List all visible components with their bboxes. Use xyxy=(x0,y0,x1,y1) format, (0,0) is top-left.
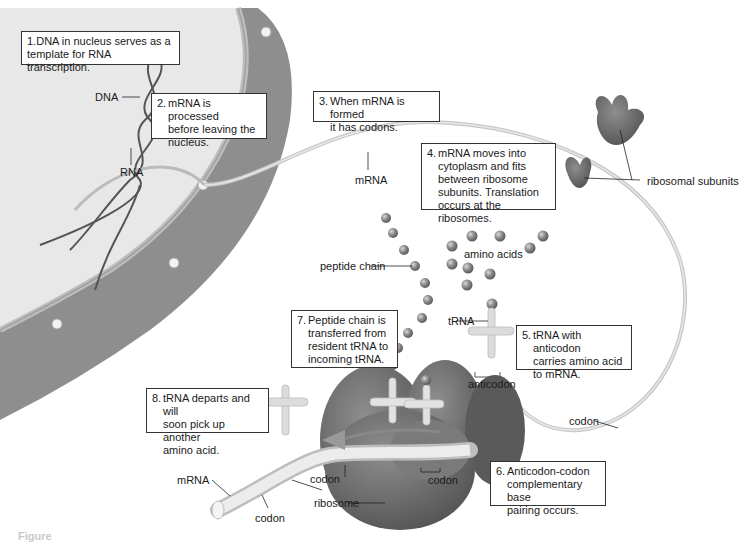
label-codon-mid: codon xyxy=(310,473,340,485)
step-6-box: 6. Anticodon-codon complementary base pa… xyxy=(490,461,606,506)
step-number: 3. xyxy=(319,95,328,108)
step-7-box: 7. Peptide chain is transferred from res… xyxy=(291,310,398,368)
ribosomal-subunit-large xyxy=(596,95,644,145)
step-number: 6. xyxy=(496,465,505,478)
label-peptide-chain: peptide chain xyxy=(320,260,385,272)
label-anticodon: anticodon xyxy=(468,378,516,390)
label-trna: tRNA xyxy=(448,315,474,327)
label-mrna-top: mRNA xyxy=(355,174,387,186)
step-description: mRNA is processed before leaving the nuc… xyxy=(157,97,261,149)
label-dna: DNA xyxy=(95,91,118,103)
trna-incoming xyxy=(468,308,514,358)
step-description: When mRNA is formed it has codons. xyxy=(319,95,434,134)
step-description: Anticodon-codon complementary base pairi… xyxy=(496,465,600,517)
step-number: 7. xyxy=(297,314,306,327)
step-5-box: 5. tRNA with anticodon carries amino aci… xyxy=(516,325,632,370)
step-description: mRNA moves into cytoplasm and fits betwe… xyxy=(427,147,550,225)
step-number: 4. xyxy=(427,147,436,160)
label-amino-acids: amino acids xyxy=(464,248,523,260)
ribosomal-subunit-small xyxy=(565,157,591,188)
step-2-box: 2. mRNA is processed before leaving the … xyxy=(151,93,267,139)
amino-acids xyxy=(447,231,549,310)
figure-caption: Figure xyxy=(18,530,52,542)
label-codon-right: codon xyxy=(569,415,599,427)
step-1-text: 1.DNA in nucleus serves as a template fo… xyxy=(27,35,174,74)
step-4-box: 4. mRNA moves into cytoplasm and fits be… xyxy=(421,143,556,210)
step-3-box: 3. When mRNA is formed it has codons. xyxy=(313,91,440,122)
step-number: 1. xyxy=(27,35,36,47)
step-description: tRNA with anticodon carries amino acid t… xyxy=(522,329,626,381)
step-description: DNA in nucleus serves as a template for … xyxy=(27,35,171,73)
step-1-box: 1.DNA in nucleus serves as a template fo… xyxy=(21,31,180,65)
step-description: tRNA departs and will soon pick up anoth… xyxy=(152,392,263,457)
step-number: 5. xyxy=(522,329,531,342)
label-codon-bottom: codon xyxy=(255,512,285,524)
step-number: 2. xyxy=(157,97,166,110)
label-ribosome: ribosome xyxy=(314,497,359,509)
step-description: Peptide chain is transferred from reside… xyxy=(297,314,392,366)
step-8-box: 8. tRNA departs and will soon pick up an… xyxy=(146,388,269,433)
label-mrna-bottom: mRNA xyxy=(177,474,209,486)
label-ribosomal-subunits: ribosomal subunits xyxy=(647,175,739,187)
step-number: 8. xyxy=(152,392,161,405)
label-rna: RNA xyxy=(120,166,143,178)
label-codon-ribosome: codon xyxy=(428,474,458,486)
